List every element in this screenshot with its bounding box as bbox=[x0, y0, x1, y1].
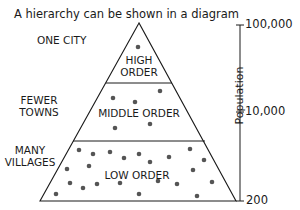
tier-high-line1: HIGH bbox=[113, 55, 165, 66]
label-many: MANY bbox=[0, 145, 60, 156]
label-fewer: FEWER bbox=[8, 95, 70, 106]
tick-10000: 10,000 bbox=[245, 106, 285, 118]
tick-100000: 100,000 bbox=[245, 19, 293, 31]
tier-middle: MIDDLE ORDER bbox=[96, 108, 182, 119]
tier-high-line2: ORDER bbox=[113, 67, 165, 78]
label-towns: TOWNS bbox=[8, 107, 70, 118]
high-order-dots bbox=[136, 45, 141, 50]
tick-200: 200 bbox=[246, 195, 268, 207]
label-one-city: ONE CITY bbox=[37, 35, 86, 46]
axis-label-population: Population bbox=[234, 67, 245, 125]
tier-low: LOW ORDER bbox=[100, 170, 174, 181]
label-villages: VILLAGES bbox=[0, 157, 60, 168]
